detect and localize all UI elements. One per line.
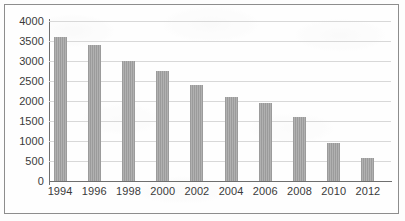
- bar: [88, 45, 101, 181]
- x-axis-line: [49, 181, 392, 182]
- chart-frame-border: 05001000150020002500300035004000 1994199…: [4, 4, 399, 214]
- bar: [190, 85, 203, 181]
- bar: [259, 103, 272, 181]
- x-axis-tick-label: 2000: [150, 185, 175, 197]
- chart-page: 05001000150020002500300035004000 1994199…: [0, 0, 405, 221]
- x-axis-tick-label: 2004: [219, 185, 244, 197]
- bar: [327, 143, 340, 181]
- y-axis-tick-label: 4000: [19, 16, 44, 27]
- gridline: [49, 21, 391, 22]
- bar: [156, 71, 169, 181]
- x-axis-tick-label: 2012: [355, 185, 380, 197]
- bar: [225, 97, 238, 181]
- x-axis-tick-label: 1996: [82, 185, 107, 197]
- y-axis-tick-label: 0: [38, 176, 44, 187]
- plot-area: 05001000150020002500300035004000: [49, 21, 391, 181]
- x-axis-tick-label: 2002: [184, 185, 209, 197]
- y-axis-tick-label: 1000: [19, 136, 44, 147]
- x-axis-tick-label: 2006: [253, 185, 278, 197]
- bar: [54, 37, 67, 181]
- bar: [293, 117, 306, 181]
- x-axis-tick-label: 1994: [48, 185, 73, 197]
- x-axis-tick-label: 2008: [287, 185, 312, 197]
- y-axis-tick-label: 1500: [19, 116, 44, 127]
- x-axis-tick-label: 1998: [116, 185, 141, 197]
- bar: [361, 158, 374, 181]
- x-axis-tick-label: 2010: [321, 185, 346, 197]
- gridline: [49, 41, 391, 42]
- y-axis-tick-label: 500: [25, 156, 44, 167]
- y-axis-tick-label: 2000: [19, 96, 44, 107]
- y-axis-tick-label: 3000: [19, 56, 44, 67]
- x-axis-tick-labels: 1994199619982000200220042006200820102012: [49, 185, 392, 205]
- bar: [122, 61, 135, 181]
- y-axis-tick-label: 3500: [19, 36, 44, 47]
- y-axis-tick-label: 2500: [19, 76, 44, 87]
